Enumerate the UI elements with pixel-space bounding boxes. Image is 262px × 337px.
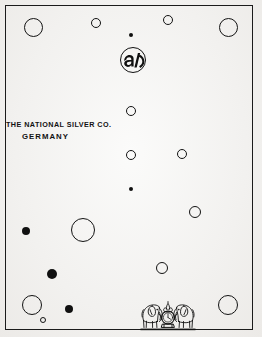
- hallmark-open-circle: [71, 218, 95, 242]
- hallmark-open-circle: [163, 15, 173, 25]
- hallmark-filled-circle: [65, 305, 73, 313]
- hallmark-open-circle: [189, 206, 201, 218]
- maker-caption: THE NATIONAL SILVER CO. GERMANY: [6, 120, 111, 142]
- hallmark-open-circle: [22, 295, 42, 315]
- maker-caption-line-1: THE NATIONAL SILVER CO.: [6, 120, 111, 130]
- twin-elephants-crest: [140, 290, 196, 335]
- hallmark-open-circle: [24, 18, 43, 37]
- hallmark-plate: THE NATIONAL SILVER CO. GERMANY: [0, 0, 262, 337]
- maker-monogram-roundel: [120, 47, 146, 73]
- maker-caption-line-2: GERMANY: [22, 132, 111, 143]
- hallmark-open-circle: [91, 18, 101, 28]
- hallmark-open-circle: [219, 18, 238, 37]
- hallmark-open-circle: [156, 262, 168, 274]
- hallmark-filled-circle: [47, 269, 57, 279]
- hallmark-open-circle: [218, 295, 238, 315]
